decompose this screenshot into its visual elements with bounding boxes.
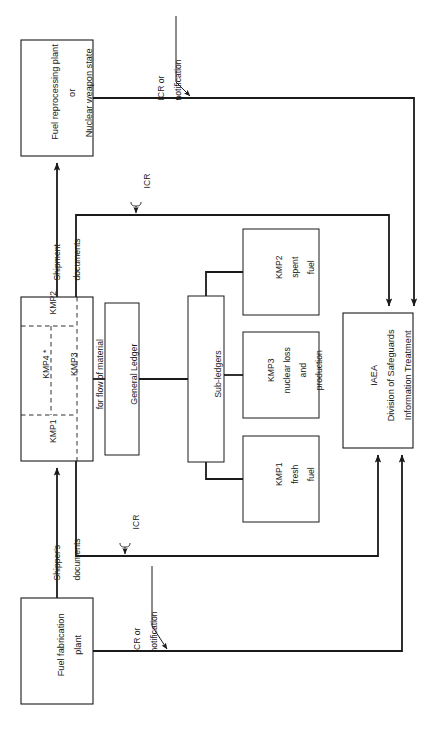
node-general-ledger <box>105 303 139 455</box>
icr-bottom-marker <box>120 543 130 554</box>
node-fuel-reprocessing-plant <box>21 40 93 156</box>
leader-icr-or-notification-top <box>176 16 190 96</box>
diagram-vector-layer <box>0 0 432 730</box>
node-kmp2-spent-fuel <box>243 229 319 315</box>
node-kmp3-nuclear-loss-production <box>243 332 319 418</box>
edge-documents-bottom-to-iaea <box>76 455 378 556</box>
node-iaea-division-safeguards <box>343 313 413 448</box>
node-fuel-fabrication-plant <box>21 598 93 704</box>
edge-subledgers-to-kmp1-fresh-fuel <box>206 462 243 479</box>
diagram-canvas: Fuel reprocessing plant or Nuclear weapo… <box>0 0 432 730</box>
node-kmp1-fresh-fuel <box>243 436 319 522</box>
icr-top-marker <box>131 202 141 213</box>
leader-icr-or-notification-bottom <box>152 566 167 649</box>
node-sub-ledgers <box>188 296 224 462</box>
node-facility-kmp-block <box>21 297 93 461</box>
edge-documents-top-to-iaea <box>76 215 389 306</box>
edge-subledgers-to-kmp2-spent-fuel <box>206 272 243 296</box>
